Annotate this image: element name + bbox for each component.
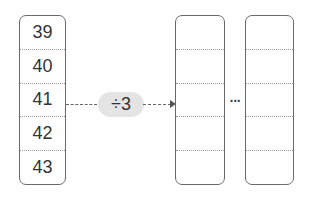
output-cell <box>176 117 224 151</box>
input-cell: 43 <box>20 151 65 184</box>
output-cell <box>176 50 224 84</box>
ellipsis-icon: ··· <box>227 93 243 109</box>
output-cell <box>176 84 224 118</box>
output-cell <box>246 84 293 118</box>
output-cell <box>176 151 224 184</box>
output-cell <box>246 151 293 184</box>
operation-badge: ÷3 <box>98 92 144 117</box>
input-cell: 39 <box>20 16 65 50</box>
output-cell <box>246 50 293 84</box>
output-cell <box>176 16 224 50</box>
output-cell <box>246 16 293 50</box>
input-cell: 40 <box>20 50 65 84</box>
input-cell: 42 <box>20 117 65 151</box>
output-cell <box>246 117 293 151</box>
connector-line <box>143 104 171 105</box>
output-column-1 <box>175 15 225 185</box>
connector-line <box>66 104 97 105</box>
output-column-2 <box>245 15 294 185</box>
input-column: 39 40 41 42 43 <box>19 15 66 185</box>
input-cell: 41 <box>20 84 65 118</box>
